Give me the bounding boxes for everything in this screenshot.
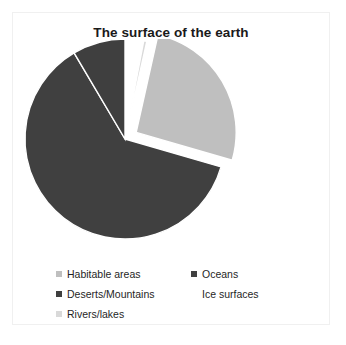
legend-item-ice-surfaces[interactable]: Ice surfaces — [191, 285, 259, 303]
chart-title: The surface of the earth — [13, 25, 329, 40]
legend-item-rivers-lakes[interactable]: Rivers/lakes — [56, 305, 124, 323]
legend-item-label: Deserts/Mountains — [67, 289, 155, 300]
pie-chart-svg — [13, 39, 329, 257]
legend-item-oceans[interactable]: Oceans — [191, 265, 238, 283]
legend-swatch-icon — [56, 311, 62, 317]
pie-slice[interactable] — [136, 39, 236, 160]
pie-chart — [13, 39, 329, 257]
chart-legend: Habitable areas Oceans Deserts/Mountains… — [13, 261, 329, 323]
legend-swatch-icon — [56, 271, 62, 277]
legend-item-label: Oceans — [202, 269, 238, 280]
legend-swatch-icon — [56, 291, 62, 297]
legend-item-habitable-areas[interactable]: Habitable areas — [56, 265, 141, 283]
legend-item-label: Rivers/lakes — [67, 309, 124, 320]
legend-swatch-icon — [191, 271, 197, 277]
legend-item-label: Ice surfaces — [202, 289, 259, 300]
chart-frame: The surface of the earth Habitable areas… — [12, 12, 330, 325]
legend-swatch-icon — [191, 291, 197, 297]
pie-slice-group — [25, 39, 236, 239]
legend-item-deserts-mountains[interactable]: Deserts/Mountains — [56, 285, 155, 303]
legend-item-label: Habitable areas — [67, 269, 141, 280]
